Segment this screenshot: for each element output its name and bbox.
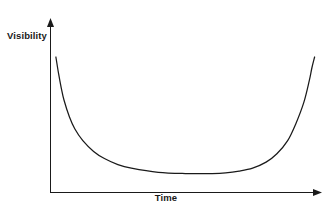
- bathtub-curve-line: [56, 57, 315, 174]
- arrow-up-icon: [47, 18, 54, 27]
- figure-container: Figure 7-2The Bathtub Curve Visibility T…: [0, 0, 326, 207]
- plot-area: [0, 0, 326, 207]
- arrow-right-icon: [313, 189, 322, 196]
